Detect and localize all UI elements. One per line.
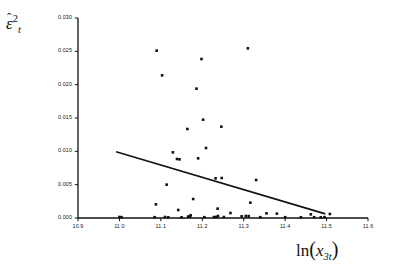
ln-function-name: ln bbox=[296, 241, 309, 260]
scatter-point bbox=[197, 157, 200, 160]
scatter-point bbox=[220, 125, 223, 128]
x-tick-label: 11.4 bbox=[280, 224, 291, 229]
y-title-subscript: t bbox=[18, 24, 21, 35]
scatter-point bbox=[172, 151, 175, 154]
scatter-point bbox=[323, 216, 326, 219]
open-paren: ( bbox=[309, 238, 316, 260]
scatter-point bbox=[120, 216, 123, 219]
y-tick-label: 0.000 bbox=[46, 215, 72, 220]
scatter-point bbox=[214, 177, 217, 180]
scatter-point bbox=[202, 118, 205, 121]
scatter-point bbox=[329, 213, 332, 216]
scatter-point bbox=[300, 216, 303, 219]
x-tick-label: 11.2 bbox=[197, 224, 208, 229]
scatter-point bbox=[247, 215, 250, 218]
scatter-point bbox=[176, 158, 179, 161]
axis-lines bbox=[78, 18, 368, 218]
scatter-point bbox=[249, 201, 252, 204]
y-axis-title: ˆε2t bbox=[6, 14, 21, 36]
x-tick-label: 11.3 bbox=[238, 224, 249, 229]
scatter-point bbox=[217, 215, 220, 218]
scatter-point bbox=[155, 49, 158, 52]
y-tick-label: 0.020 bbox=[46, 82, 72, 87]
scatter-point bbox=[195, 87, 198, 90]
scatter-point bbox=[177, 209, 180, 212]
scatter-point bbox=[180, 216, 183, 219]
scatter-point bbox=[276, 212, 279, 215]
scatter-point bbox=[220, 177, 223, 180]
x-axis-title: ln(x3t) bbox=[296, 239, 338, 263]
x-tick-label: 10.9 bbox=[73, 224, 84, 229]
scatter-point bbox=[216, 207, 219, 210]
x-tick-label: 11.5 bbox=[321, 224, 332, 229]
regression-trend-line bbox=[116, 152, 325, 214]
scatter-point bbox=[265, 212, 268, 215]
y-tick-label: 0.010 bbox=[46, 149, 72, 154]
x-variable-subscript: 3t bbox=[323, 251, 331, 262]
scatter-point bbox=[223, 216, 226, 219]
scatter-point bbox=[189, 214, 192, 217]
scatter-point bbox=[164, 216, 167, 219]
scatter-point bbox=[213, 216, 216, 219]
y-tick-label: 0.015 bbox=[46, 115, 72, 120]
hat-accent: ˆ bbox=[7, 11, 11, 24]
scatter-point bbox=[284, 216, 287, 219]
trend-line bbox=[116, 152, 325, 214]
scatter-point bbox=[313, 216, 316, 219]
scatter-point bbox=[178, 158, 181, 161]
scatter-point bbox=[165, 183, 168, 186]
close-paren: ) bbox=[332, 238, 339, 260]
scatter-point bbox=[229, 212, 232, 215]
y-tick-label: 0.030 bbox=[46, 15, 72, 20]
scatter-point bbox=[247, 47, 250, 50]
scatter-point bbox=[161, 74, 164, 77]
scatter-point bbox=[203, 216, 206, 219]
scatter-point bbox=[205, 147, 208, 150]
y-title-superscript: 2 bbox=[13, 13, 18, 24]
scatter-point bbox=[310, 213, 313, 216]
epsilon-hat-group: ˆε bbox=[6, 15, 13, 32]
x-tick-label: 11.0 bbox=[114, 224, 125, 229]
y-tick-label: 0.025 bbox=[46, 49, 72, 54]
x-tick-label: 11.1 bbox=[156, 224, 167, 229]
scatter-point bbox=[192, 198, 195, 201]
scatter-point bbox=[240, 215, 243, 218]
scatter-point bbox=[244, 215, 247, 218]
x-tick-label: 11.6 bbox=[363, 224, 374, 229]
scatter-point bbox=[167, 216, 170, 219]
scatter-point bbox=[319, 216, 322, 219]
scatter-point bbox=[259, 216, 262, 219]
scatter-points bbox=[118, 47, 331, 219]
y-tick-label: 0.005 bbox=[46, 182, 72, 187]
scatter-point bbox=[153, 216, 156, 219]
scatter-point bbox=[155, 203, 158, 206]
scatter-plot-figure: 0.0000.0050.0100.0150.0200.0250.030 10.9… bbox=[0, 0, 394, 269]
scatter-point bbox=[186, 128, 189, 131]
scatter-point bbox=[200, 58, 203, 61]
scatter-point bbox=[255, 179, 258, 182]
